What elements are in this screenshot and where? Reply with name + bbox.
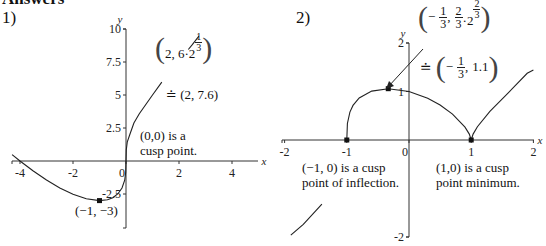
x-tick-label: -2 <box>68 166 78 180</box>
x-tick-label: 0 <box>119 166 125 180</box>
plot-2-approx-value: ≐ (− 13, 1.1) <box>420 50 499 84</box>
data-point-marker <box>469 138 474 143</box>
plot-2-max-annotation: (− 13, 23·223) <box>418 0 490 34</box>
plot-2-curve-left <box>291 204 322 235</box>
x-axis-label: x <box>537 134 543 146</box>
plot-2-minimum-note: (1,0) is a cusp point minimum. <box>436 160 520 190</box>
x-axis-label: x <box>261 155 267 167</box>
y-tick-label: -2.5 <box>102 187 121 201</box>
x-tick-label: 1 <box>468 145 474 159</box>
y-tick-label: -2 <box>394 230 404 244</box>
y-tick-label: 7.5 <box>106 55 121 69</box>
plot-1-max-annotation: (2, 6·213) <box>155 31 212 65</box>
x-tick-label: 2 <box>176 166 182 180</box>
x-tick-label: -1 <box>342 145 352 159</box>
plot-2-max-arrow <box>388 49 423 87</box>
x-tick-label: -2 <box>280 145 290 159</box>
plot-1-approx-value: ≐ (2, 7.6) <box>166 87 218 102</box>
y-tick-label: 2.5 <box>106 121 121 135</box>
y-axis-label: y <box>117 13 123 25</box>
y-tick-label: 5 <box>115 88 121 102</box>
data-point-marker <box>344 138 349 143</box>
plot-1-cusp-note: (0,0) is a cusp point. <box>140 128 197 158</box>
y-axis-label: y <box>400 27 406 39</box>
x-tick-label: 0 <box>402 145 408 159</box>
x-tick-label: 2 <box>530 145 536 159</box>
plot-2-inflection-note: (−1, 0) is a cusp point of inflection. <box>302 160 399 190</box>
plot-1-min-label: (−1, −3) <box>75 203 118 218</box>
x-tick-label: 4 <box>229 166 235 180</box>
plot-1-axes <box>12 29 258 228</box>
y-tick-label: 1 <box>398 85 404 99</box>
x-tick-label: -4 <box>15 166 25 180</box>
